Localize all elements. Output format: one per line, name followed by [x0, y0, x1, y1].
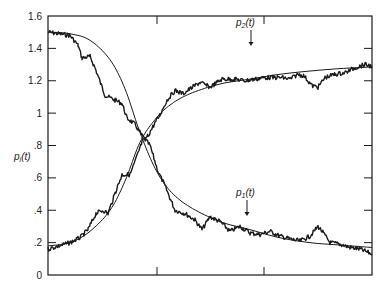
series-group — [48, 31, 372, 255]
y-tick-label: 1.6 — [28, 11, 42, 22]
axes-box — [48, 16, 372, 275]
arrowhead-icon — [249, 42, 254, 46]
y-tick-label: 1.2 — [28, 75, 42, 86]
x-axis-ticks — [157, 16, 264, 275]
p2-t-stochastic-line — [48, 63, 372, 252]
series-annotation: p1(t) — [235, 187, 255, 199]
y-tick-label: 1 — [36, 108, 42, 119]
annotations: p2(t)p1(t) — [235, 17, 255, 216]
y-tick-label: .8 — [34, 140, 43, 151]
y-axis-label: pi(t) — [13, 151, 31, 163]
arrowhead-icon — [245, 212, 250, 216]
y-tick-label: 0 — [36, 270, 42, 281]
y-tick-label: 1.4 — [28, 43, 42, 54]
y-tick-label: .2 — [34, 237, 43, 248]
plot-frame — [48, 16, 372, 275]
y-tick-label: .4 — [34, 205, 43, 216]
p1-t-stochastic-line — [48, 31, 372, 255]
line-chart: 0.2.4.6.811.21.41.6 pi(t) p2(t)p1(t) — [0, 0, 387, 292]
series-annotation: p2(t) — [235, 17, 255, 29]
p2-t-smooth-line — [48, 67, 372, 246]
y-tick-label: .6 — [34, 172, 43, 183]
